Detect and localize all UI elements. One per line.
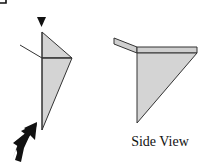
- fold-diagram: Side View: [0, 0, 209, 165]
- lower-flap: [42, 58, 72, 130]
- reference-line: [20, 45, 42, 58]
- side-top-band: [137, 47, 197, 53]
- upper-flap: [42, 32, 72, 58]
- push-arrow-icon-body: [13, 122, 37, 162]
- frame-corner: [0, 0, 6, 3]
- side-view: [114, 38, 197, 123]
- front-view: [12, 17, 72, 162]
- side-tab: [114, 38, 137, 53]
- down-triangle-marker-icon: [37, 17, 46, 27]
- side-view-caption: Side View: [120, 134, 200, 150]
- side-triangle: [137, 53, 197, 123]
